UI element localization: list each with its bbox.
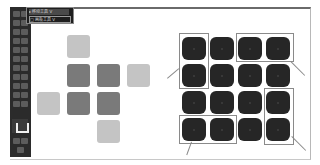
stamp-icon[interactable] — [13, 47, 20, 53]
history-brush-icon[interactable] — [21, 47, 28, 53]
flyout-item-artboard-tool[interactable]: □ 画板工具 V — [29, 16, 71, 23]
pattern-square — [97, 92, 120, 115]
type-icon[interactable] — [21, 74, 28, 80]
grid-tile — [210, 64, 234, 87]
extra-tool-icon[interactable] — [21, 101, 28, 107]
grid-tile — [238, 118, 262, 141]
eyedropper-icon[interactable] — [21, 29, 28, 35]
crop-icon[interactable] — [13, 29, 20, 35]
lasso-icon[interactable] — [13, 20, 20, 26]
pen-icon[interactable] — [13, 74, 20, 80]
flyout-item-move-tool[interactable]: ▸ 移动工具 V — [29, 9, 69, 15]
background-color-swatch[interactable] — [16, 123, 29, 133]
eraser-icon[interactable] — [13, 56, 20, 62]
pattern-square — [67, 64, 90, 87]
brush-icon[interactable] — [21, 38, 28, 44]
grid-tile — [238, 91, 262, 114]
dodge-icon[interactable] — [21, 65, 28, 71]
pattern-square — [97, 64, 120, 87]
tools-panel — [10, 7, 31, 157]
hand-icon[interactable] — [13, 92, 20, 98]
selection-top-row — [236, 33, 294, 62]
grid-tile — [182, 91, 206, 114]
pattern-square — [67, 92, 90, 115]
edit-toolbar-icon[interactable] — [13, 101, 20, 107]
selection-bottom-row — [179, 115, 237, 144]
pattern-square — [37, 92, 60, 115]
grid-tile — [210, 91, 234, 114]
shape-icon[interactable] — [21, 83, 28, 89]
healing-icon[interactable] — [13, 38, 20, 44]
grid-tile — [266, 64, 290, 87]
gradient-icon[interactable] — [21, 56, 28, 62]
zoom-icon[interactable] — [21, 92, 28, 98]
pattern-square — [67, 35, 90, 58]
blur-icon[interactable] — [13, 65, 20, 71]
selection-right-column — [264, 88, 294, 145]
quick-mask-icon[interactable] — [13, 138, 20, 144]
grid-tile — [210, 37, 234, 60]
move-icon[interactable] — [13, 11, 20, 17]
path-select-icon[interactable] — [13, 83, 20, 89]
tool-flyout-menu: ▸ 移动工具 V □ 画板工具 V — [26, 7, 74, 24]
frame-icon[interactable] — [17, 147, 24, 153]
selection-left-column — [179, 33, 209, 89]
pattern-square — [97, 120, 120, 143]
screen-mode-icon[interactable] — [21, 138, 28, 144]
pattern-square — [127, 64, 150, 87]
grid-tile — [238, 64, 262, 87]
